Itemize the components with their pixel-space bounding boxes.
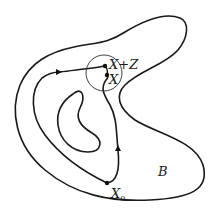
- label-x: X: [109, 73, 118, 86]
- label-x-plus-z-text: X+Z: [109, 57, 138, 72]
- label-x0-subscript: 0: [120, 194, 125, 203]
- diagram-canvas: [0, 0, 213, 220]
- region-label-b-text: B: [158, 164, 168, 179]
- point-x-plus-z: [103, 64, 107, 68]
- label-x0: X0: [111, 187, 125, 203]
- path-outer-loop: [33, 66, 107, 183]
- outer-boundary: [15, 16, 204, 200]
- label-x-text: X: [109, 72, 118, 87]
- label-x0-text: X: [111, 186, 120, 201]
- arrow-icon: [115, 145, 121, 151]
- diagram-figure: X+Z X X0 B: [0, 0, 213, 220]
- inner-hole: [58, 91, 100, 152]
- label-x-plus-z: X+Z: [109, 58, 138, 71]
- region-label-b: B: [158, 165, 168, 178]
- arrow-icon: [56, 69, 62, 75]
- point-x0: [105, 181, 109, 185]
